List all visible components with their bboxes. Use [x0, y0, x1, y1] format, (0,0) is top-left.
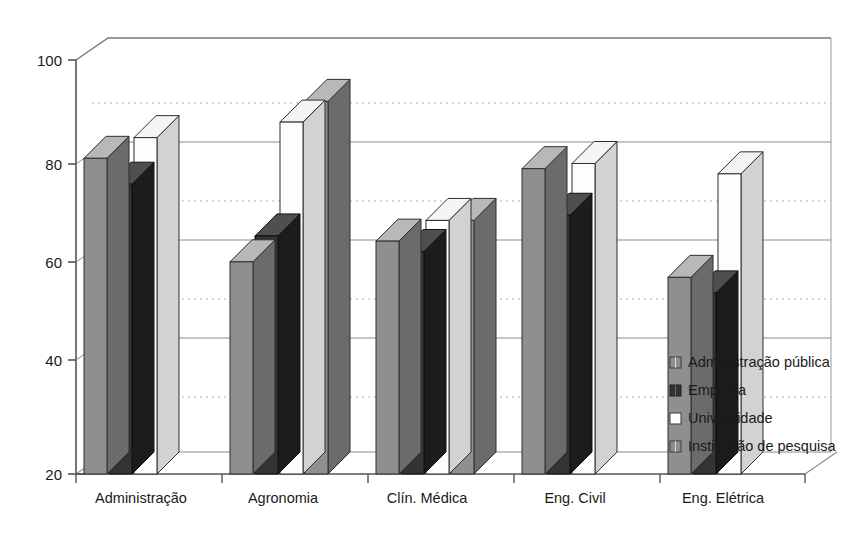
chart-canvas: 100 80 60 40 20 Administração Agronomia … — [0, 0, 868, 537]
bar-front-face — [376, 241, 399, 474]
x-cat-label-1: Agronomia — [248, 490, 319, 506]
legend-label-3: Instituição de pesquisa — [688, 438, 836, 454]
bar-side-face — [424, 229, 446, 474]
bar-side-face — [328, 79, 350, 474]
bar-side-face — [278, 214, 300, 474]
bar-side-face — [132, 162, 154, 474]
x-axis-ticks — [76, 474, 805, 483]
x-axis-labels: Administração Agronomia Clín. Médica Eng… — [95, 490, 765, 506]
legend-item-administracao-publica[interactable]: Administração pública — [670, 354, 831, 370]
bar-1-0[interactable] — [230, 240, 275, 474]
bar-side-face — [595, 142, 617, 475]
y-tick-label-40: 40 — [45, 352, 62, 369]
legend-swatch-icon-2 — [670, 413, 681, 424]
bar-0-0[interactable] — [84, 136, 129, 474]
bar-side-face — [157, 116, 179, 474]
bar-side-face — [449, 198, 471, 474]
bar-chart: 100 80 60 40 20 Administração Agronomia … — [0, 0, 868, 537]
bar-front-face — [84, 158, 107, 474]
bar-side-face — [399, 219, 421, 474]
legend-item-instituicao-de-pesquisa[interactable]: Instituição de pesquisa — [670, 438, 836, 454]
x-cat-label-2: Clín. Médica — [387, 490, 469, 506]
bars-layer — [84, 79, 763, 474]
y-tick-label-20: 20 — [45, 466, 62, 483]
legend-label-0: Administração pública — [688, 354, 831, 370]
legend-label-1: Empresa — [688, 382, 747, 398]
x-cat-label-4: Eng. Elétrica — [682, 490, 765, 506]
bar-side-face — [253, 240, 275, 474]
bar-side-face — [545, 147, 567, 474]
bar-2-0[interactable] — [376, 219, 421, 474]
x-cat-label-0: Administração — [95, 490, 187, 506]
y-tick-label-60: 60 — [45, 254, 62, 271]
bar-3-0[interactable] — [522, 147, 567, 474]
x-cat-label-3: Eng. Civil — [544, 490, 605, 506]
y-axis-labels: 100 80 60 40 20 — [37, 52, 62, 483]
bar-side-face — [570, 193, 592, 474]
y-tick-label-80: 80 — [45, 156, 62, 173]
bar-side-face — [303, 100, 325, 474]
legend-label-2: Universidade — [688, 410, 773, 426]
bar-side-face — [107, 136, 129, 474]
bar-side-face — [474, 198, 496, 474]
y-tick-label-100: 100 — [37, 52, 62, 69]
bar-front-face — [230, 262, 253, 474]
bar-front-face — [522, 169, 545, 474]
